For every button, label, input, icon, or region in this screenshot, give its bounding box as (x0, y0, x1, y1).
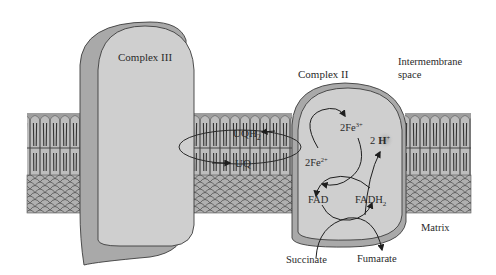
diagram-canvas: Complex III Complex II UQH2 UQ 2Fe3+ 2Fe… (0, 0, 496, 275)
intermembrane-space-label-line1: Intermembrane (398, 56, 462, 67)
fad-label: FAD (308, 194, 329, 205)
fumarate-label: Fumarate (357, 253, 397, 264)
complex-ii-label: Complex II (298, 68, 349, 80)
succinate-label: Succinate (286, 254, 327, 265)
membrane-segment-right (405, 113, 471, 213)
complex-iii-label: Complex III (118, 51, 172, 63)
uq-label: UQ (235, 157, 251, 169)
intermembrane-space-label-line2: space (398, 69, 422, 80)
matrix-label: Matrix (421, 222, 450, 233)
